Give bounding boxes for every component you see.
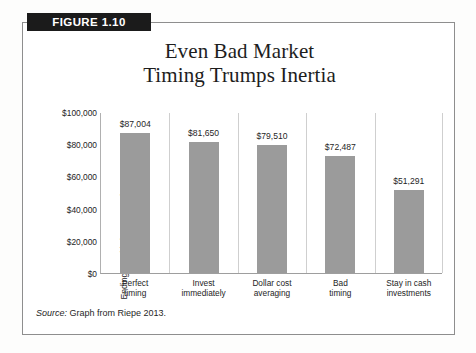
bar-group[interactable]: $72,487Badtiming — [306, 113, 374, 273]
bar-group[interactable]: $79,510Dollar costaveraging — [238, 113, 306, 273]
bar[interactable] — [120, 133, 150, 273]
y-axis-tick-label: $0 — [37, 269, 97, 279]
x-axis-category-label: Dollar costaveraging — [235, 278, 309, 298]
x-axis-category-label-line: averaging — [235, 288, 309, 298]
source-note: Source: Graph from Riepe 2013. — [36, 308, 166, 318]
x-axis-category-label-line: Invest — [167, 278, 241, 288]
x-axis-category-label-line: Bad — [303, 278, 377, 288]
chart-title-line-2: Timing Trumps Inertia — [23, 63, 456, 87]
bar-value-label: $79,510 — [256, 131, 287, 141]
bar-value-label: $51,291 — [393, 176, 424, 186]
y-axis-tick-label: $40,000 — [37, 205, 97, 215]
bar-value-label: $72,487 — [325, 142, 356, 152]
x-axis-category-label-line: investments — [372, 288, 446, 298]
figure-number-banner: FIGURE 1.10 — [27, 13, 151, 31]
bar[interactable] — [189, 142, 219, 273]
x-axis-category-label: Investimmediately — [167, 278, 241, 298]
bar-group[interactable]: $81,650Investimmediately — [169, 113, 237, 273]
y-axis-tick-label: $100,000 — [37, 108, 97, 118]
chart-title-line-1: Even Bad Market — [23, 39, 456, 63]
x-axis-category-label-line: Stay in cash — [372, 278, 446, 288]
bar-group[interactable]: $87,004Perfecttiming — [101, 113, 169, 273]
y-axis-tick-label: $20,000 — [37, 237, 97, 247]
source-text: Graph from Riepe 2013. — [67, 308, 166, 318]
figure-page: FIGURE 1.10 Even Bad Market Timing Trump… — [0, 0, 476, 353]
x-axis-category-label-line: Dollar cost — [235, 278, 309, 288]
plot-wrapper: Ending Wealth (1993–2012) $100,000$80,00… — [100, 113, 442, 274]
x-axis-category-label: Badtiming — [303, 278, 377, 298]
figure-frame: Even Bad Market Timing Trumps Inertia En… — [22, 22, 455, 335]
x-axis-category-label-line: timing — [98, 288, 172, 298]
bar-group[interactable]: $51,291Stay in cashinvestments — [375, 113, 443, 273]
bar[interactable] — [394, 190, 424, 273]
bar-value-label: $87,004 — [120, 119, 151, 129]
x-axis-category-label-line: Perfect — [98, 278, 172, 288]
x-axis-category-label-line: timing — [303, 288, 377, 298]
figure-number-label: FIGURE 1.10 — [52, 16, 125, 28]
x-axis-category-label: Perfecttiming — [98, 278, 172, 298]
y-axis-tick-label: $80,000 — [37, 140, 97, 150]
bar[interactable] — [325, 156, 355, 273]
x-axis-category-label-line: immediately — [167, 288, 241, 298]
bar-value-label: $81,650 — [188, 128, 219, 138]
source-label: Source: — [36, 308, 67, 318]
bar[interactable] — [257, 145, 287, 273]
x-axis-category-label: Stay in cashinvestments — [372, 278, 446, 298]
plot-area: $100,000$80,000$60,000$40,000$20,000$0 $… — [100, 113, 442, 274]
y-axis-tick-label: $60,000 — [37, 172, 97, 182]
chart-title: Even Bad Market Timing Trumps Inertia — [23, 39, 456, 87]
